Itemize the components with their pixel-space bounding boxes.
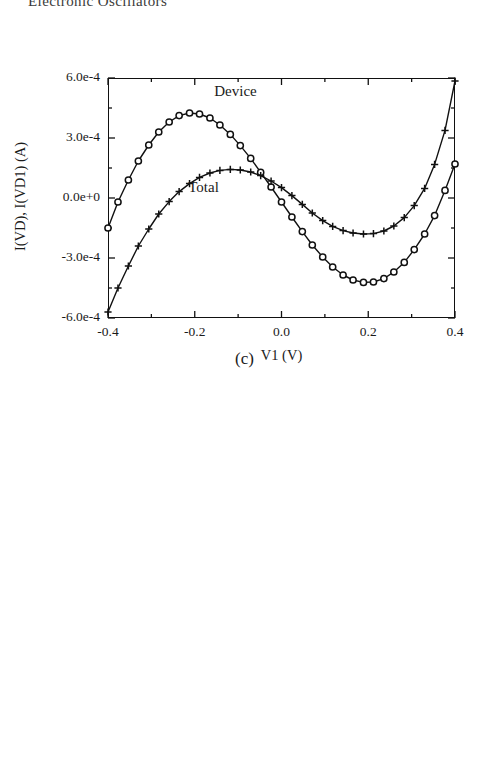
- marker-plus: [135, 242, 142, 249]
- marker-circle: [289, 214, 295, 220]
- marker-plus: [441, 127, 448, 134]
- curve-label-total: Total: [188, 179, 219, 196]
- chart-iv-characteristic: -0.4-0.20.00.20.46.0e-43.0e-40.0e+0-3.0e…: [0, 34, 489, 334]
- marker-circle: [125, 177, 131, 183]
- running-header: Electronic Oscillators: [28, 0, 167, 10]
- marker-circle: [452, 161, 458, 167]
- marker-circle: [196, 111, 202, 117]
- marker-circle: [360, 279, 366, 285]
- y-axis-title: I(VD), I(VD1) (A): [12, 77, 29, 317]
- marker-plus: [206, 169, 213, 176]
- marker-circle: [422, 231, 428, 237]
- x-tick-label: -0.4: [78, 324, 138, 340]
- marker-circle: [146, 142, 152, 148]
- marker-plus: [360, 230, 367, 237]
- marker-plus: [349, 229, 356, 236]
- marker-circle: [432, 213, 438, 219]
- series-line-total: [108, 81, 455, 312]
- marker-circle: [217, 122, 223, 128]
- marker-plus: [237, 166, 244, 173]
- marker-plus: [227, 166, 234, 173]
- figure-page: Electronic Oscillators -0.4-0.20.00.20.4…: [0, 0, 489, 761]
- y-tick-label: 6.0e-4: [30, 69, 100, 85]
- marker-plus: [104, 308, 111, 315]
- marker-circle: [176, 113, 182, 119]
- marker-circle: [227, 131, 233, 137]
- curve-label-device: Device: [214, 83, 256, 100]
- marker-plus: [216, 167, 223, 174]
- x-tick-label: 0.2: [338, 324, 398, 340]
- marker-circle: [411, 247, 417, 253]
- y-tick-label: 3.0e-4: [30, 129, 100, 145]
- y-tick-label: -3.0e-4: [30, 249, 100, 265]
- figure-caption: (c): [0, 349, 489, 369]
- marker-circle: [330, 264, 336, 270]
- marker-circle: [391, 269, 397, 275]
- marker-plus: [421, 185, 428, 192]
- x-tick-label: -0.2: [165, 324, 225, 340]
- marker-plus: [370, 230, 377, 237]
- marker-circle: [350, 277, 356, 283]
- marker-plus: [431, 161, 438, 168]
- plot-area-iv: -0.4-0.20.00.20.46.0e-43.0e-40.0e+0-3.0e…: [108, 78, 455, 318]
- marker-circle: [278, 199, 284, 205]
- marker-circle: [442, 187, 448, 193]
- marker-circle: [381, 276, 387, 282]
- series-line-device: [108, 113, 455, 282]
- marker-circle: [156, 129, 162, 135]
- marker-circle: [320, 254, 326, 260]
- x-tick-label: 0.0: [252, 324, 312, 340]
- marker-circle: [135, 158, 141, 164]
- chart-oscillator-waveform: 0.800.820.840.860.880.900.40.20.0-0.2-0.…: [0, 420, 489, 750]
- x-tick-label: 0.4: [425, 324, 485, 340]
- marker-circle: [166, 119, 172, 125]
- marker-plus: [125, 262, 132, 269]
- curve-layer-iv: [108, 78, 455, 318]
- marker-plus: [329, 223, 336, 230]
- marker-circle: [401, 259, 407, 265]
- marker-plus: [114, 284, 121, 291]
- marker-circle: [340, 272, 346, 278]
- marker-circle: [299, 229, 305, 235]
- marker-circle: [207, 115, 213, 121]
- marker-circle: [248, 155, 254, 161]
- marker-plus: [145, 225, 152, 232]
- marker-circle: [186, 110, 192, 116]
- marker-circle: [268, 184, 274, 190]
- marker-circle: [309, 242, 315, 248]
- y-tick-label: 0.0e+0: [30, 189, 100, 205]
- marker-circle: [105, 225, 111, 231]
- marker-circle: [115, 199, 121, 205]
- marker-plus: [247, 168, 254, 175]
- y-tick-label: -6.0e-4: [30, 309, 100, 325]
- marker-plus: [380, 227, 387, 234]
- marker-circle: [237, 143, 243, 149]
- marker-circle: [370, 279, 376, 285]
- marker-plus: [339, 227, 346, 234]
